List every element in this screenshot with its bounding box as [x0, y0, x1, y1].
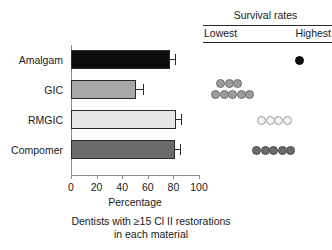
survival-row-compomer [199, 135, 332, 165]
bar-row-amalgam [71, 45, 199, 75]
survival-rates-highest-label: Highest [295, 27, 331, 39]
error-bar-cap-compomer [180, 144, 181, 155]
survival-rates-top-rule [203, 25, 332, 26]
survival-row-gic [199, 75, 332, 105]
x-axis-title: Percentage [71, 196, 199, 208]
survival-marker-gic [216, 79, 225, 88]
x-tick-label-100: 100 [190, 181, 208, 193]
survival-marker-compomer [286, 146, 295, 155]
x-tick-40 [122, 175, 123, 179]
x-tick-label-80: 80 [168, 181, 180, 193]
x-tick-60 [148, 175, 149, 179]
survival-marker-gic [245, 90, 254, 99]
survival-marker-amalgam [295, 56, 304, 65]
bar-amalgam [71, 50, 170, 69]
bar-row-rmgic [71, 105, 199, 135]
bar-row-compomer [71, 135, 199, 165]
survival-marker-compomer [252, 146, 261, 155]
chart-caption: Dentists with ≥15 Cl II restorations in … [16, 215, 286, 241]
survival-marker-compomer [269, 146, 278, 155]
survival-row-amalgam [199, 45, 332, 75]
survival-rates-title: Survival rates [199, 9, 332, 21]
x-tick-80 [173, 175, 174, 179]
survival-marker-rmgic [257, 116, 266, 125]
bar-compomer [71, 140, 175, 159]
x-axis-line: 020406080100 [71, 175, 199, 176]
category-axis-labels: Amalgam GIC RMGIC Compomer [0, 45, 68, 165]
survival-marker-rmgic [283, 116, 292, 125]
category-label-compomer: Compomer [0, 135, 68, 165]
survival-marker-gic [228, 90, 237, 99]
survival-row-rmgic [199, 105, 332, 135]
survival-rates-lowest-label: Lowest [204, 27, 237, 39]
survival-marker-rmgic [274, 116, 283, 125]
x-tick-label-40: 40 [116, 181, 128, 193]
caption-line-2: in each material [16, 228, 286, 241]
category-label-amalgam: Amalgam [0, 45, 68, 75]
error-bar-cap-gic [143, 84, 144, 95]
x-tick-label-20: 20 [91, 181, 103, 193]
x-tick-label-60: 60 [142, 181, 154, 193]
survival-marker-gic [211, 90, 220, 99]
caption-line-1: Dentists with ≥15 Cl II restorations [16, 215, 286, 228]
survival-rates-bar-chart: Amalgam GIC RMGIC Compomer 020406080100 … [0, 0, 332, 250]
category-label-gic: GIC [0, 75, 68, 105]
bar-rmgic [71, 110, 176, 129]
category-label-rmgic: RMGIC [0, 105, 68, 135]
error-bar-cap-amalgam [175, 54, 176, 65]
survival-rates-bottom-rule [203, 42, 332, 43]
x-tick-20 [97, 175, 98, 179]
bar-row-gic [71, 75, 199, 105]
survival-rates-panel: Survival rates Lowest Highest [199, 0, 332, 180]
x-tick-label-0: 0 [68, 181, 74, 193]
x-tick-0 [71, 175, 72, 179]
plot-area [71, 45, 199, 175]
bar-gic [71, 80, 136, 99]
survival-marker-gic [233, 79, 242, 88]
error-bar-cap-rmgic [181, 114, 182, 125]
